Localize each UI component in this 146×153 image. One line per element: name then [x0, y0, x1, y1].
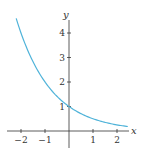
- x-tick-label: 2: [114, 135, 120, 145]
- y-axis-label: y: [62, 9, 69, 20]
- x-tick-label: −1: [38, 135, 51, 145]
- y-tick-label: 4: [59, 28, 65, 38]
- chart: −2−112 1234 x y: [0, 0, 146, 153]
- curve-line: [16, 18, 128, 126]
- x-tick-label: −2: [14, 135, 27, 145]
- axes: [7, 20, 129, 148]
- y-tick-label: 3: [59, 53, 65, 63]
- x-tick-label: 1: [90, 135, 96, 145]
- y-tick-label: 2: [59, 77, 65, 87]
- x-axis-label: x: [131, 125, 137, 136]
